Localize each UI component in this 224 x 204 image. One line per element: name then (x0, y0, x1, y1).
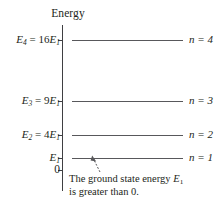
energy-label-n2: E2 = 4E1 (22, 128, 60, 140)
energy-label-n3-unit-subscript: 1 (56, 99, 60, 108)
energy-label-n4-unit-subscript: 1 (56, 38, 60, 47)
quantum-number-label-n2: n = 2 (189, 128, 213, 140)
energy-level-line-n4 (72, 40, 183, 41)
energy-level-line-n2 (72, 135, 183, 136)
energy-label-n4-equation: = 16 (27, 33, 50, 45)
energy-label-n3: E3 = 9E1 (22, 94, 60, 106)
axis-title: Energy (0, 7, 136, 19)
energy-level-diagram: Energy E4 = 16E1 n = 4 E3 = 9E1 n = 3 E2… (0, 0, 224, 204)
caption-line-1-subscript: 1 (180, 178, 184, 186)
energy-label-n2-unit-subscript: 1 (56, 133, 60, 142)
energy-axis-line (62, 25, 63, 191)
energy-label-n1: E1 (50, 151, 60, 163)
energy-label-n2-equation: = 4 (32, 128, 49, 140)
axis-zero-label: 0 (54, 163, 60, 175)
quantum-number-label-n3: n = 3 (189, 94, 213, 106)
caption-leader-arrow-icon (86, 153, 108, 173)
caption-line-1-pre: The ground state energy (69, 173, 173, 184)
energy-label-n3-symbol: E (22, 94, 29, 106)
quantum-number-label-n4: n = 4 (189, 33, 213, 45)
quantum-number-label-n1: n = 1 (189, 151, 213, 163)
caption-line-2: is greater than 0. (69, 186, 139, 197)
energy-label-n3-equation: = 9 (32, 94, 49, 106)
caption-text: The ground state energy E1 is greater th… (69, 172, 221, 198)
energy-label-n2-symbol: E (22, 128, 29, 140)
energy-level-line-n3 (72, 101, 183, 102)
energy-label-n4: E4 = 16E1 (16, 33, 60, 45)
